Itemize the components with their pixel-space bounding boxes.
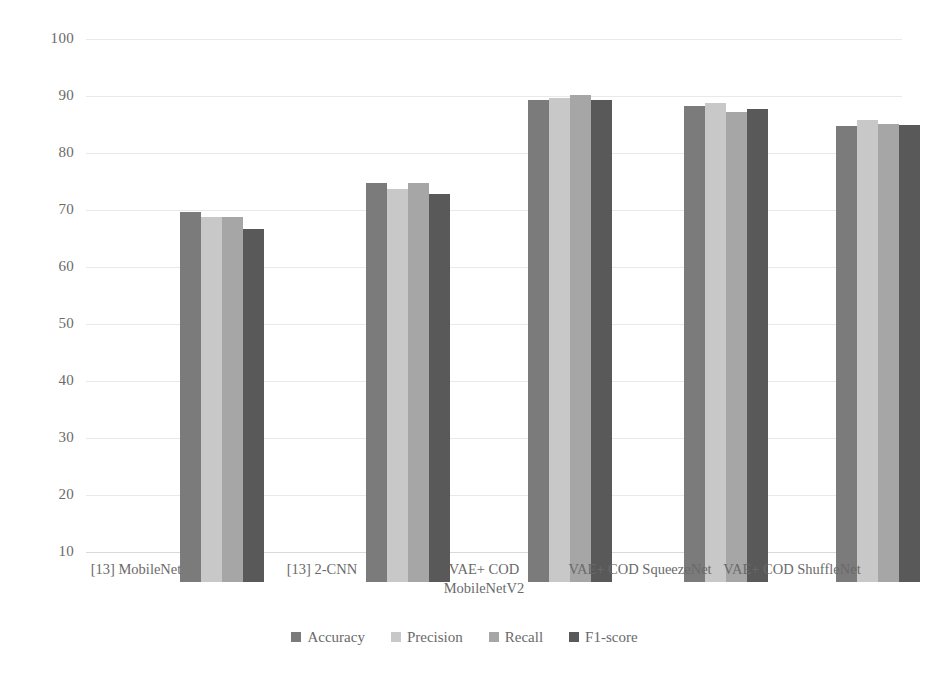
legend-item-accuracy[interactable]: Accuracy bbox=[291, 628, 364, 646]
bar-group bbox=[834, 30, 922, 582]
chart-legend: AccuracyPrecisionRecallF1-score bbox=[0, 628, 929, 646]
y-axis-tick-label: 10 bbox=[58, 544, 74, 559]
legend-label: F1-score bbox=[585, 628, 638, 646]
y-axis-tick-label: 60 bbox=[58, 259, 74, 274]
bar-recall bbox=[878, 124, 899, 582]
legend-swatch-icon bbox=[489, 632, 499, 642]
y-axis-tick-label: 100 bbox=[51, 31, 74, 46]
bar-group-bars bbox=[178, 30, 266, 582]
bar-precision bbox=[549, 98, 570, 583]
bar-group bbox=[364, 30, 452, 582]
y-axis-tick-label: 20 bbox=[58, 487, 74, 502]
bar-recall bbox=[570, 95, 591, 582]
plot-area bbox=[86, 30, 896, 560]
y-axis-tick-label: 90 bbox=[58, 88, 74, 103]
bar-f1-score bbox=[899, 125, 920, 582]
bar-accuracy bbox=[836, 126, 857, 582]
bar-precision bbox=[387, 189, 408, 582]
bar-f1-score bbox=[243, 229, 264, 582]
legend-label: Accuracy bbox=[307, 628, 364, 646]
bar-accuracy bbox=[528, 100, 549, 582]
bar-group-bars bbox=[364, 30, 452, 582]
category-axis-labels: [13] MobileNet[13] 2-CNNVAE+ COD MobileN… bbox=[0, 560, 929, 620]
bar-precision bbox=[201, 217, 222, 582]
legend-swatch-icon bbox=[291, 632, 301, 642]
legend-swatch-icon bbox=[391, 632, 401, 642]
y-axis-tick-label: 70 bbox=[58, 202, 74, 217]
bar-recall bbox=[222, 217, 243, 582]
y-axis-tick-label: 30 bbox=[58, 430, 74, 445]
category-label: [13] MobileNet bbox=[36, 560, 236, 579]
legend-item-recall[interactable]: Recall bbox=[489, 628, 543, 646]
legend-swatch-icon bbox=[569, 632, 579, 642]
bar-f1-score bbox=[747, 109, 768, 582]
bar-group-bars bbox=[682, 30, 770, 582]
bar-chart: 100908070605040302010 [13] MobileNet[13]… bbox=[0, 0, 929, 683]
bar-precision bbox=[705, 103, 726, 582]
bar-group-bars bbox=[834, 30, 922, 582]
bar-accuracy bbox=[366, 183, 387, 582]
bar-group bbox=[526, 30, 614, 582]
bar-recall bbox=[408, 183, 429, 582]
bar-group bbox=[178, 30, 266, 582]
bar-group bbox=[682, 30, 770, 582]
bar-f1-score bbox=[591, 100, 612, 582]
y-axis: 100908070605040302010 bbox=[0, 0, 86, 600]
bar-accuracy bbox=[684, 106, 705, 582]
legend-label: Precision bbox=[407, 628, 463, 646]
legend-item-precision[interactable]: Precision bbox=[391, 628, 463, 646]
y-axis-tick-label: 40 bbox=[58, 373, 74, 388]
legend-item-f1-score[interactable]: F1-score bbox=[569, 628, 638, 646]
bar-group-bars bbox=[526, 30, 614, 582]
bar-precision bbox=[857, 120, 878, 582]
legend-label: Recall bbox=[505, 628, 543, 646]
category-label: VAE+ COD ShuffleNet bbox=[692, 560, 892, 579]
bar-recall bbox=[726, 112, 747, 582]
bar-f1-score bbox=[429, 194, 450, 582]
y-axis-tick-label: 50 bbox=[58, 316, 74, 331]
bar-accuracy bbox=[180, 212, 201, 583]
y-axis-tick-label: 80 bbox=[58, 145, 74, 160]
